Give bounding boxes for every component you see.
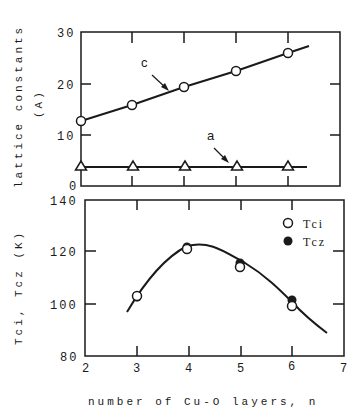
top-panel: 30 20 10 0 lattice constants (A) c a [13,25,340,194]
top-ylabel-unit: (A) [33,89,45,118]
legend-label-tci: Tci [303,217,324,231]
bottom-ytick-80: 80 [60,351,78,365]
bottom-ylabel: Tci, Tcz (K) [13,230,25,345]
xtick-3: 3 [133,362,142,376]
bottom-ytick-100: 100 [50,299,78,313]
annotation-c: c [141,55,148,70]
bottom-xlabel: number of Cu-O layers, n [88,396,318,408]
xtick-4: 4 [185,362,194,376]
figure: 30 20 10 0 lattice constants (A) c a [0,0,361,417]
legend: Tci Tcz [284,217,327,249]
bottom-panel: 140 120 100 80 Tci, Tcz (K) 2 3 4 5 6 7 … [13,195,349,408]
top-ytick-30: 30 [57,27,75,41]
xtick-2: 2 [82,362,91,376]
legend-open-circle-icon [284,219,293,228]
top-ytick-10: 10 [57,130,75,144]
fit-curve [127,244,327,333]
xtick-5: 5 [237,362,246,376]
xtick-7: 7 [340,362,349,376]
top-ylabel: lattice constants [13,25,25,188]
a-markers [76,161,294,170]
bottom-ytick-140: 140 [50,195,78,209]
top-ytick-0: 0 [69,180,78,194]
legend-filled-circle-icon [284,237,293,246]
tci-markers [133,245,297,311]
bottom-ytick-120: 120 [50,246,78,260]
annotation-a: a [207,128,215,143]
c-line [81,46,309,121]
legend-label-tcz: Tcz [303,235,326,249]
xtick-6: 6 [288,360,297,374]
top-ytick-20: 20 [57,79,75,93]
tcz-markers [133,243,297,305]
c-markers [77,49,293,126]
